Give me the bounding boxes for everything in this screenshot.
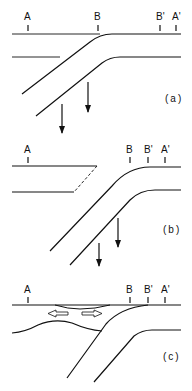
- label-a-B: B: [94, 12, 101, 22]
- upper-plate-base: [12, 321, 102, 333]
- label-a-Aprime: A': [172, 12, 181, 22]
- label-a-A: A: [24, 12, 31, 22]
- label-c-A: A: [24, 285, 31, 295]
- label-b-A: A: [24, 145, 31, 155]
- extension-arrow-right: [82, 310, 102, 317]
- label-c-Aprime: A': [161, 285, 170, 295]
- label-b-B: B: [126, 145, 133, 155]
- label-c-Bprime: B': [144, 285, 153, 295]
- panel-caption-c: (c): [163, 352, 181, 362]
- panel-b: [12, 157, 181, 266]
- upper-plate-dashed-edge: [74, 166, 97, 192]
- panel-c: [12, 297, 181, 382]
- slab-bottom: [36, 57, 181, 116]
- label-c-B: B: [126, 285, 133, 295]
- panel-a: [12, 25, 181, 133]
- label-b-Bprime: B': [144, 145, 153, 155]
- slab-top: [50, 167, 181, 251]
- panel-caption-b: (b): [163, 225, 181, 235]
- extension-arrow-left: [48, 310, 68, 317]
- label-a-Bprime: B': [156, 12, 165, 22]
- subduction-diagram: [0, 0, 192, 391]
- label-b-Aprime: A': [161, 145, 170, 155]
- panel-caption-a: (a): [165, 94, 183, 104]
